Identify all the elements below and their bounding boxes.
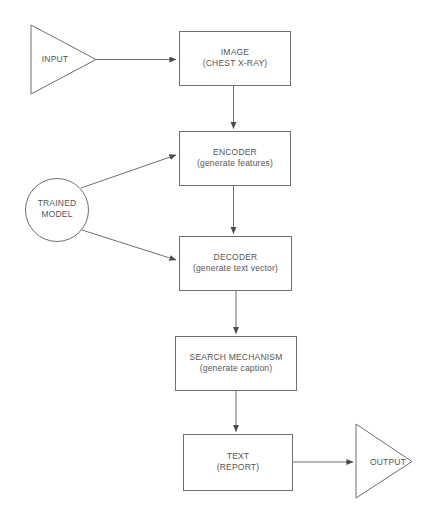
text-node-shape[interactable] <box>184 435 293 491</box>
output-terminator-shape[interactable] <box>356 424 412 498</box>
trained-model-node-shape[interactable] <box>26 179 89 242</box>
flowchart-canvas: INPUT IMAGE (CHEST X-RAY) TRAINED MODEL … <box>0 0 432 519</box>
edge-model-to-decoder <box>82 230 176 260</box>
flowchart-graphics <box>0 0 432 519</box>
input-terminator-shape[interactable] <box>31 25 96 94</box>
search-mechanism-node-shape[interactable] <box>176 337 297 391</box>
encoder-node-shape[interactable] <box>180 132 291 186</box>
decoder-node-shape[interactable] <box>180 237 292 291</box>
edge-model-to-encoder <box>81 155 176 188</box>
image-node-shape[interactable] <box>180 32 291 86</box>
